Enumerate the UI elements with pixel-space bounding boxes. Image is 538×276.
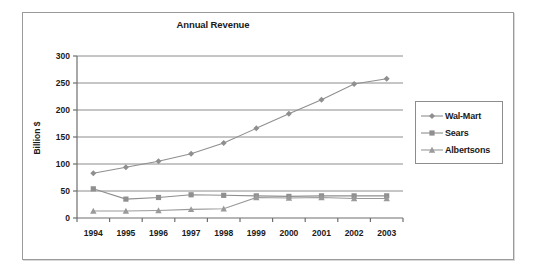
data-point-marker xyxy=(319,97,325,103)
data-point-marker xyxy=(123,164,129,170)
data-point-marker xyxy=(156,195,161,200)
data-point-marker xyxy=(156,158,162,164)
chart-container: Annual Revenue Billion $ 050100150200250… xyxy=(22,12,514,260)
series-line xyxy=(93,197,386,211)
y-tick-label: 0 xyxy=(65,213,70,223)
x-tick-label: 2003 xyxy=(377,228,396,238)
data-point-marker xyxy=(91,186,96,191)
x-tick-label: 1996 xyxy=(149,228,168,238)
data-point-marker xyxy=(253,125,259,131)
x-tick-label: 2000 xyxy=(279,228,298,238)
x-axis-ticks: 1994199519961997199819992000200120022003 xyxy=(77,218,403,238)
data-series xyxy=(90,194,390,213)
x-tick-label: 1997 xyxy=(182,228,201,238)
data-series xyxy=(91,186,390,201)
legend-triangle-icon xyxy=(419,143,445,157)
x-tick-label: 2002 xyxy=(345,228,364,238)
legend-item-albertsons[interactable]: Albertsons xyxy=(419,141,498,158)
x-tick-label: 2001 xyxy=(312,228,331,238)
x-tick-label: 1999 xyxy=(247,228,266,238)
legend-item-sears[interactable]: Sears xyxy=(419,124,498,141)
data-point-marker xyxy=(221,140,227,146)
legend-item-wal-mart[interactable]: Wal-Mart xyxy=(419,107,498,124)
data-point-marker xyxy=(286,111,292,117)
legend-diamond-icon xyxy=(419,109,445,123)
x-tick-label: 1998 xyxy=(214,228,233,238)
y-tick-label: 300 xyxy=(56,51,70,61)
legend-label: Albertsons xyxy=(445,145,490,155)
data-series xyxy=(90,76,389,176)
x-tick-label: 1995 xyxy=(116,228,135,238)
data-point-marker xyxy=(189,192,194,197)
data-point-marker xyxy=(429,130,434,135)
y-tick-label: 200 xyxy=(56,105,70,115)
y-axis-ticks: 050100150200250300 xyxy=(56,51,77,223)
legend-label: Sears xyxy=(445,128,469,138)
data-series-group xyxy=(90,76,390,214)
y-tick-label: 250 xyxy=(56,78,70,88)
gridlines xyxy=(77,56,403,191)
legend-label: Wal-Mart xyxy=(445,111,481,121)
y-axis-title: Billion $ xyxy=(32,121,42,154)
y-tick-label: 150 xyxy=(56,132,70,142)
y-tick-label: 50 xyxy=(61,186,71,196)
data-point-marker xyxy=(221,193,226,198)
y-tick-label: 100 xyxy=(56,159,70,169)
x-tick-label: 1994 xyxy=(84,228,103,238)
series-line xyxy=(93,189,386,199)
data-point-marker xyxy=(188,151,194,157)
legend: Wal-MartSearsAlbertsons xyxy=(415,101,503,164)
data-point-marker xyxy=(384,76,390,82)
series-line xyxy=(93,79,386,173)
data-point-marker xyxy=(90,170,96,176)
y-axis-title-text: Billion $ xyxy=(32,121,42,154)
legend-square-icon xyxy=(419,126,445,140)
data-point-marker xyxy=(123,197,128,202)
data-point-marker xyxy=(351,81,357,87)
data-point-marker xyxy=(429,113,435,119)
